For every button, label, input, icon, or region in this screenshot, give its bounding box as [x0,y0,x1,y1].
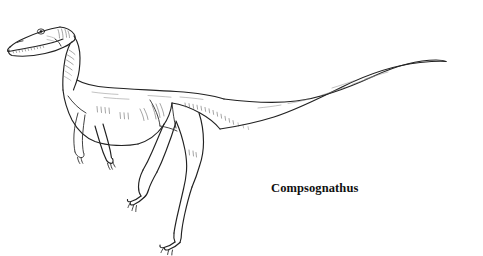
head-group [8,27,76,56]
forelimb-far [74,113,85,164]
body-group [63,80,224,145]
eye-icon [40,30,43,33]
hindlimb-near [160,113,204,255]
dinosaur-illustration [0,0,483,256]
species-label: Compsognathus [271,182,358,195]
tail-group [220,60,446,129]
illustration-page: Compsognathus [0,0,483,256]
head-hatching [47,29,70,42]
hindlimb-far [127,122,176,212]
forelimb-near [95,124,115,170]
